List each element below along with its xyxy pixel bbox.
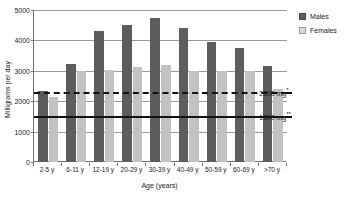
bar-males-40-49-y	[179, 28, 189, 162]
bar-group	[146, 10, 174, 162]
legend-swatch-males-icon	[299, 13, 306, 20]
y-tick-label-2000: 2000	[14, 98, 30, 105]
legend-item-females: Females	[299, 27, 337, 34]
x-tick-label-50-59-y: 50-59 y	[205, 167, 227, 174]
y-tick-label-0: 0	[26, 159, 30, 166]
upper-limit-line	[34, 92, 287, 94]
bar-group	[259, 10, 287, 162]
x-axis: 2-5 y6-11 y12-19 y20-29 y30-39 y40-49 y5…	[33, 163, 286, 177]
upper-limit-line-label: 2300 mg*	[259, 87, 289, 96]
plot-area: 010002000300040005000	[33, 10, 286, 162]
lower-limit-line-footnote-marker: **	[286, 112, 291, 118]
x-tick-label-20-29-y: 20-29 y	[121, 167, 143, 174]
x-tick-mark	[202, 163, 203, 166]
bar-group	[90, 10, 118, 162]
bar-females-20-29-y	[133, 67, 143, 162]
legend-label-males: Males	[310, 13, 329, 20]
bar-group	[231, 10, 259, 162]
x-tick-mark	[230, 163, 231, 166]
x-tick-label-2-5-y: 2-5 y	[40, 167, 54, 174]
x-tick-mark	[61, 163, 62, 166]
bar-males-12-19-y	[94, 31, 104, 162]
bar-males-60-69-y	[235, 48, 245, 162]
x-tick-mark	[145, 163, 146, 166]
bar-females-2-5-y	[49, 97, 59, 162]
x-tick-mark	[258, 163, 259, 166]
x-tick-label-30-39-y: 30-39 y	[149, 167, 171, 174]
x-axis-title: Age (years)	[33, 182, 286, 189]
upper-limit-line-footnote-marker: *	[286, 87, 288, 93]
x-tick-label--70-y: >70 y	[264, 167, 280, 174]
x-tick-label-12-19-y: 12-19 y	[92, 167, 114, 174]
bar-group	[34, 10, 62, 162]
bar-females--70-y	[273, 89, 283, 162]
bar-males-2-5-y	[38, 91, 48, 162]
bar-group	[118, 10, 146, 162]
bars-group	[34, 10, 287, 162]
bar-group	[62, 10, 90, 162]
bar-females-30-39-y	[161, 65, 171, 162]
bar-group	[203, 10, 231, 162]
bar-males-6-11-y	[66, 64, 76, 162]
x-tick-mark	[117, 163, 118, 166]
x-tick-mark	[89, 163, 90, 166]
y-tick-label-3000: 3000	[14, 67, 30, 74]
lower-limit-line-label: 1500 mg**	[259, 112, 291, 121]
sodium-intake-bar-chart: Milligrams per day 010002000300040005000…	[0, 0, 352, 204]
legend-label-females: Females	[310, 27, 337, 34]
legend: Males Females	[299, 13, 337, 41]
y-tick-label-5000: 5000	[14, 7, 30, 14]
y-tick-label-1000: 1000	[14, 128, 30, 135]
lower-limit-line	[34, 116, 287, 118]
x-tick-mark	[33, 163, 34, 166]
y-tick-label-4000: 4000	[14, 37, 30, 44]
legend-swatch-females-icon	[299, 27, 306, 34]
cutoff-caption	[4, 197, 254, 203]
bar-males-30-39-y	[150, 18, 160, 162]
x-tick-label-40-49-y: 40-49 y	[177, 167, 199, 174]
x-tick-mark	[174, 163, 175, 166]
bar-group	[175, 10, 203, 162]
y-axis-title: Milligrams per day	[4, 54, 11, 126]
x-tick-mark	[286, 163, 287, 166]
x-tick-label-60-69-y: 60-69 y	[233, 167, 255, 174]
x-tick-label-6-11-y: 6-11 y	[66, 167, 84, 174]
bar-males-50-59-y	[207, 42, 217, 162]
legend-item-males: Males	[299, 13, 337, 20]
